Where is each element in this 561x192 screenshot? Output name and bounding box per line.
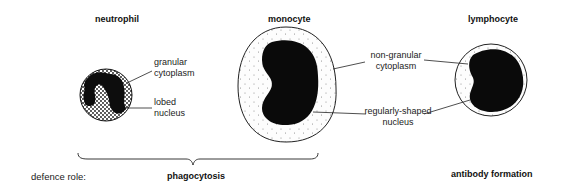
non-granular-cytoplasm-label: non-granular cytoplasm: [364, 50, 428, 72]
label-line: non-granular: [364, 50, 428, 61]
label-line: regularly-shaped: [360, 106, 436, 117]
white-blood-cells-diagram: neutrophil monocyte lymphocyte granular …: [0, 0, 561, 192]
phagocytosis-brace: [78, 153, 318, 165]
label-line: cytoplasm: [364, 61, 428, 72]
antibody-formation-label: antibody formation: [451, 169, 533, 179]
defence-role-label: defence role:: [31, 171, 86, 182]
phagocytosis-label: phagocytosis: [167, 171, 225, 181]
lymphocyte-title: lymphocyte: [468, 14, 518, 24]
diagram-artwork: [0, 0, 561, 192]
round-nucleus-shape: [469, 49, 523, 112]
granular-cytoplasm-label: granular cytoplasm: [154, 57, 195, 79]
lobed-nucleus-label: lobed nucleus: [154, 97, 185, 119]
label-line: nucleus: [360, 117, 436, 128]
label-line: granular: [154, 57, 195, 68]
monocyte-title: monocyte: [268, 14, 311, 24]
neutrophil-cell: [80, 69, 152, 121]
neutrophil-title: neutrophil: [95, 14, 139, 24]
regularly-shaped-nucleus-label: regularly-shaped nucleus: [360, 106, 436, 128]
lymphocyte-cell: [424, 44, 527, 116]
label-line: lobed: [154, 97, 185, 108]
label-line: nucleus: [154, 108, 185, 119]
monocyte-cell: [238, 27, 366, 142]
label-line: cytoplasm: [154, 68, 195, 79]
